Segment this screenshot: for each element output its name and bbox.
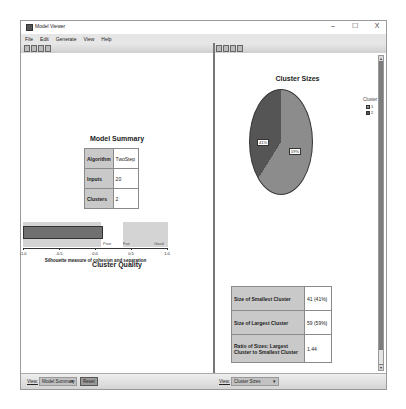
legend-swatch — [366, 111, 370, 115]
tick-label: 0.5 — [121, 251, 141, 256]
slice-label-1: 59% — [289, 148, 301, 155]
summary-key: Inputs — [85, 169, 114, 189]
copy-special-icon[interactable] — [223, 45, 229, 52]
right-pane: Cluster Sizes 59% 41% Cluster 1 2 Size o… — [215, 53, 386, 373]
copy-icon[interactable] — [24, 45, 30, 52]
sort-icon[interactable] — [45, 45, 51, 52]
copy-icon[interactable] — [216, 45, 222, 52]
reset-button[interactable]: Reset — [80, 377, 98, 386]
left-view-label: View: — [27, 379, 38, 384]
size-key: Ratio of Sizes: Largest Cluster to Small… — [232, 335, 305, 363]
scroll-up-arrow[interactable]: ▴ — [379, 56, 383, 61]
size-value: 59 (59%) — [305, 311, 332, 335]
menu-file[interactable]: File — [25, 36, 33, 42]
right-view-value: Cluster Sizes — [234, 379, 261, 384]
size-value: 41 (41%) — [305, 287, 332, 311]
menu-help[interactable]: Help — [101, 36, 111, 42]
summary-value: 20 — [113, 169, 138, 189]
legend-swatch — [366, 105, 370, 109]
legend-item-2: 2 — [366, 110, 373, 115]
title-bar: Model Viewer – ☐ X — [21, 21, 386, 34]
quality-label-poor: Poor — [103, 241, 111, 246]
print-icon[interactable] — [38, 45, 44, 52]
size-key: Size of Largest Cluster — [232, 311, 305, 335]
quality-label-good: Good — [154, 241, 164, 246]
model-viewer-window: Model Viewer – ☐ X File Edit Generate Vi… — [20, 20, 387, 390]
tick-label: 0.0 — [85, 251, 105, 256]
summary-value: TwoStep — [113, 149, 138, 169]
chevron-down-icon: ▾ — [273, 378, 276, 386]
window-title: Model Viewer — [35, 23, 65, 29]
minimize-button[interactable]: – — [328, 22, 338, 30]
left-pane: Model Summary AlgorithmTwoStep Inputs20 … — [21, 53, 214, 373]
tick-label: -0.5 — [49, 251, 69, 256]
tick-label: -1.0 — [13, 251, 33, 256]
legend-label: 1 — [371, 104, 373, 109]
menu-generate[interactable]: Generate — [56, 36, 77, 42]
sort-icon[interactable] — [237, 45, 243, 52]
summary-key: Clusters — [85, 189, 114, 209]
model-summary-title: Model Summary — [21, 135, 213, 142]
x-axis-label: Silhouette measure of cohesion and separ… — [23, 258, 168, 263]
slice-label-2: 41% — [257, 139, 269, 146]
cluster-sizes-table: Size of Smallest Cluster41 (41%) Size of… — [231, 286, 332, 363]
size-value: 1.44 — [305, 335, 332, 363]
app-icon — [26, 24, 33, 31]
right-toolbar — [213, 43, 386, 53]
legend-label: 2 — [371, 110, 373, 115]
left-view-dropdown[interactable]: Model Summary▾ — [39, 377, 77, 386]
cluster-sizes-title: Cluster Sizes — [215, 75, 380, 82]
summary-key: Algorithm — [85, 149, 114, 169]
quality-label-fair: Fair — [123, 241, 130, 246]
model-summary-table: AlgorithmTwoStep Inputs20 Clusters2 — [84, 148, 139, 209]
size-key: Size of Smallest Cluster — [232, 287, 305, 311]
close-button[interactable]: X — [372, 22, 382, 30]
chevron-down-icon: ▾ — [71, 378, 74, 386]
status-bar: View: Model Summary▾ Reset View: Cluster… — [21, 373, 386, 389]
legend-title: Cluster — [363, 97, 377, 102]
left-view-value: Model Summary — [42, 379, 75, 384]
maximize-button[interactable]: ☐ — [350, 22, 360, 30]
copy-special-icon[interactable] — [31, 45, 37, 52]
legend-item-1: 1 — [366, 104, 373, 109]
scroll-down-arrow[interactable]: ▾ — [379, 365, 383, 370]
vertical-scrollbar[interactable]: ▴ ▾ — [378, 55, 384, 371]
tick-label: 1.0 — [157, 251, 177, 256]
right-view-label: View: — [219, 379, 230, 384]
menu-edit[interactable]: Edit — [40, 36, 49, 42]
pane-splitter[interactable] — [213, 43, 215, 373]
scroll-thumb[interactable] — [379, 350, 383, 364]
left-toolbar — [21, 43, 213, 53]
menu-view[interactable]: View — [84, 36, 95, 42]
right-view-dropdown[interactable]: Cluster Sizes▾ — [231, 377, 279, 386]
print-icon[interactable] — [230, 45, 236, 52]
silhouette-bar — [23, 226, 103, 239]
menu-bar: File Edit Generate View Help — [21, 34, 386, 43]
summary-value: 2 — [113, 189, 138, 209]
